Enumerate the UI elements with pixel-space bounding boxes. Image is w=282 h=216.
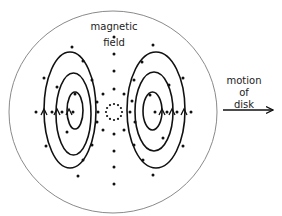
field-dot [96,121,99,124]
field-dot [102,93,105,96]
field-dot [82,159,85,162]
field-dot [61,111,64,114]
dotted-circle-dot [120,107,122,109]
field-dot [113,133,116,136]
arrow-up-icon [54,109,60,115]
field-dot [182,145,185,148]
field-dot [133,79,136,82]
field-dot [134,121,137,124]
field-dot [162,137,165,140]
field-dot [71,46,74,49]
label-disk: disk [224,99,264,110]
field-dot [113,53,116,56]
label-magnetic: magnetic [88,21,140,32]
label-of: of [224,87,264,98]
dotted-circle-dot [117,104,119,106]
field-dot [82,60,85,63]
field-dot [141,61,144,64]
field-dot [113,183,116,186]
eddy-loops-right [127,52,185,168]
field-dot [102,129,105,132]
field-dot [113,150,116,153]
dotted-circle-dot [117,118,119,120]
field-dot [176,111,179,114]
field-dot [123,129,126,132]
label-field: field [98,37,130,48]
eddy-loop-right-inner [143,92,162,130]
dotted-circle-dot [113,119,115,121]
field-dot [154,111,157,114]
field-dot [142,159,145,162]
field-dot [35,111,38,114]
dotted-circle-dot [106,107,108,109]
field-dot [113,166,116,169]
field-dot [182,77,185,80]
center-dotted-circle [105,103,123,121]
field-dot [123,93,126,96]
field-dot [91,79,94,82]
dotted-circle-dot [121,111,123,113]
arrow-up-icon [169,109,175,115]
dotted-circle-dot [120,115,122,117]
field-dot [131,100,134,103]
field-dot [152,174,155,177]
field-dot [113,70,116,73]
dotted-circle-dot [106,115,108,117]
dotted-circle-dot [109,118,111,120]
field-dot [190,111,193,114]
eddy-loop-left-middle [56,73,91,155]
field-dot [43,77,46,80]
label-motion: motion [224,75,264,86]
field-dot [152,44,155,47]
eddy-current-diagram: magnetic field motion of disk [0,0,282,216]
field-dot [129,111,132,114]
field-dot [113,88,116,91]
field-dot [72,111,75,114]
field-dot [45,145,48,148]
field-dot [97,111,100,114]
dotted-circle-dot [109,104,111,106]
field-dot [91,144,94,147]
field-dot [77,175,80,178]
field-dot [96,101,99,104]
arrow-up-icon [181,109,187,115]
field-dot [166,111,169,114]
field-dot [168,84,171,87]
field-dot [74,93,77,96]
field-dot [56,86,59,89]
field-dot [149,94,152,97]
dotted-circle-dot [113,103,115,105]
field-dot [51,111,54,114]
dotted-circle-dot [105,111,107,113]
field-dot [133,144,136,147]
field-dot [66,131,69,134]
